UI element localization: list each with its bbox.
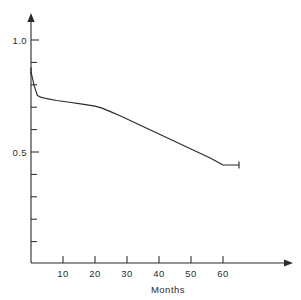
y-tick-label-0.5: 0.5: [13, 147, 27, 158]
censor-mark-group: [31, 67, 239, 168]
y-axis-arrow-icon: [27, 13, 34, 22]
x-tick-label-50: 50: [185, 268, 196, 279]
x-tick-label-40: 40: [153, 268, 164, 279]
y-tick-group: [31, 40, 39, 242]
x-axis-arrow-icon: [284, 259, 293, 266]
survival-curve: [31, 72, 239, 165]
x-tick-group: [63, 256, 223, 263]
x-axis-title: Months: [151, 284, 185, 295]
survival-chart: 1.0 0.5 10 20 30 40 50 60 Months: [0, 0, 301, 300]
x-tick-label-60: 60: [217, 268, 228, 279]
y-tick-label-1.0: 1.0: [13, 35, 27, 46]
x-tick-label-30: 30: [121, 268, 132, 279]
chart-canvas: 1.0 0.5 10 20 30 40 50 60 Months: [0, 0, 301, 300]
x-tick-label-20: 20: [89, 268, 100, 279]
x-tick-label-10: 10: [57, 268, 68, 279]
